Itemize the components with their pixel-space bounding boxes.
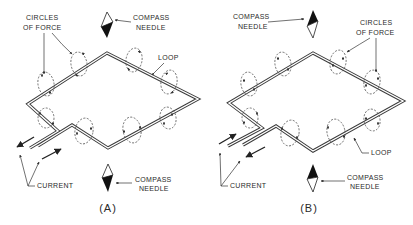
circle-of-force-icon	[279, 119, 301, 148]
leader-line	[268, 19, 304, 22]
leader-line	[52, 33, 72, 54]
compass-needle-icon	[307, 10, 318, 38]
label-current: CURRENT	[230, 182, 267, 189]
label-compass-needle: NEEDLE	[238, 23, 268, 30]
label-circles-of-force: OF FORCE	[23, 24, 62, 31]
compass-needle-icon	[101, 12, 113, 38]
label-compass-needle: COMPASS	[133, 14, 170, 21]
circle-of-force-icon	[239, 71, 259, 97]
panel-caption: (A)	[99, 202, 117, 214]
circles-of-force	[239, 49, 382, 148]
label-loop: LOOP	[371, 149, 392, 156]
panel-a: CIRCLES OF FORCE COMPASS NEEDLE LOOP CUR…	[17, 12, 198, 214]
label-compass-needle: COMPASS	[233, 13, 270, 20]
label-compass-needle: COMPASS	[347, 174, 384, 181]
label-loop: LOOP	[158, 54, 179, 61]
leader-line	[152, 63, 164, 75]
label-circles-of-force: CIRCLES	[360, 19, 392, 26]
circle-of-force-icon	[69, 51, 89, 77]
current-arrow-icon	[246, 147, 265, 157]
label-compass-needle: COMPASS	[135, 176, 172, 183]
loop-wire	[28, 53, 198, 148]
label-circles-of-force: OF FORCE	[356, 29, 395, 36]
circle-of-force-icon	[38, 108, 54, 128]
leader-line	[347, 38, 370, 52]
current-arrow-icon	[42, 149, 61, 159]
magnetic-loop-diagram: CIRCLES OF FORCE COMPASS NEEDLE LOOP CUR…	[0, 0, 413, 225]
label-compass-needle: NEEDLE	[139, 185, 169, 192]
leader-line	[220, 153, 228, 186]
label-compass-needle: NEEDLE	[350, 183, 380, 190]
compass-needle-icon	[102, 164, 113, 192]
leader-line	[115, 20, 131, 22]
leader-line	[354, 138, 369, 153]
label-current: CURRENT	[37, 182, 74, 189]
compass-needle-icon	[307, 164, 318, 192]
panel-caption: (B)	[300, 202, 318, 214]
label-circles-of-force: CIRCLES	[26, 14, 58, 21]
leader-line	[20, 155, 35, 186]
loop-wire	[228, 53, 403, 151]
panel-b: COMPASS NEEDLE CIRCLES OF FORCE LOOP CUR…	[219, 10, 403, 214]
label-compass-needle: NEEDLE	[136, 24, 166, 31]
